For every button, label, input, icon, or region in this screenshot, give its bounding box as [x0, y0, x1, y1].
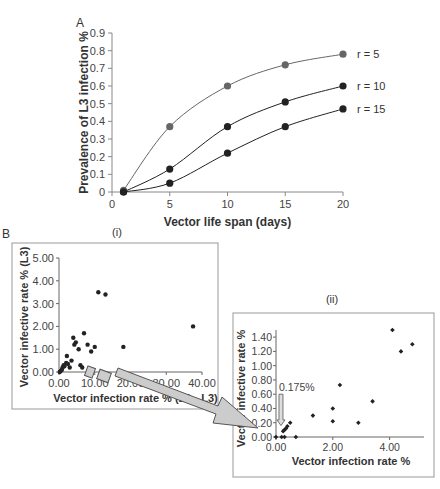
data-point — [82, 331, 86, 335]
data-point — [410, 342, 415, 347]
panel-label-a: A — [76, 16, 84, 30]
data-point — [339, 105, 346, 112]
y-tick-label: 0.80 — [252, 374, 273, 386]
data-point — [74, 340, 78, 344]
y-tick-label: 1.00 — [252, 360, 273, 372]
data-point — [89, 349, 93, 353]
data-point — [282, 123, 289, 130]
y-tick-label: 0.60 — [252, 388, 273, 400]
data-point — [339, 51, 346, 58]
data-point — [224, 150, 231, 157]
y-tick-label: 0.6 — [90, 80, 105, 92]
y-tick-label: 3.00 — [33, 298, 54, 310]
data-point — [282, 98, 289, 105]
data-point — [166, 165, 173, 172]
data-point — [69, 358, 73, 362]
y-tick-label: 1.20 — [252, 345, 273, 357]
data-point — [282, 61, 289, 68]
panel-label-b: B — [2, 227, 10, 241]
x-tick-label: 0.00 — [48, 377, 69, 389]
data-point — [121, 345, 125, 349]
data-point — [338, 383, 343, 388]
data-point — [331, 406, 336, 411]
series-label: r = 15 — [357, 103, 385, 115]
data-point — [166, 180, 173, 187]
x-tick-label: 0 — [109, 198, 115, 210]
data-point — [311, 413, 316, 418]
data-point — [120, 188, 127, 195]
y-tick-label: 5.00 — [33, 252, 54, 264]
y-tick-label: 0 — [99, 186, 105, 198]
data-point — [85, 342, 89, 346]
x-tick-label: 40.00 — [188, 377, 216, 389]
data-point — [65, 354, 69, 358]
data-point — [294, 435, 299, 440]
data-point — [399, 349, 404, 354]
threshold-annotation: 0.175% — [277, 381, 315, 425]
data-point — [166, 123, 173, 130]
y-tick-label: 1.40 — [252, 331, 273, 343]
data-point — [356, 420, 361, 425]
data-point — [191, 324, 195, 328]
panel-a: A 00.10.20.30.40.50.60.70.80.9 05101520 … — [76, 16, 385, 229]
x-tick-label: 15 — [279, 198, 291, 210]
y-tick-label: 0.9 — [90, 27, 105, 39]
data-point — [68, 365, 72, 369]
data-point — [274, 435, 279, 440]
y-axis-label: Prevalence of L3 infection % — [77, 31, 91, 194]
panel-b-i: B (i) 0.001.002.003.004.005.00 0.0010.00… — [2, 226, 218, 409]
y-tick-label: 0.4 — [90, 115, 105, 127]
data-point — [288, 420, 293, 425]
data-point — [103, 292, 107, 296]
panel-b-ii: (ii) 0.000.200.400.600.801.001.201.40 0.… — [233, 293, 434, 477]
x-tick-label: 4.00 — [379, 441, 400, 453]
x-tick-label: 20 — [337, 198, 349, 210]
y-tick-label: 0.2 — [90, 151, 105, 163]
data-point — [93, 345, 97, 349]
x-tick-label: 5 — [167, 198, 173, 210]
x-tick-label: 0.00 — [266, 441, 287, 453]
series-label: r = 10 — [357, 80, 385, 92]
data-point — [224, 123, 231, 130]
data-point — [224, 82, 231, 89]
x-tick-label: 10 — [221, 198, 233, 210]
y-tick-label: 4.00 — [33, 275, 54, 287]
y-tick-label: 0.40 — [252, 402, 273, 414]
y-tick-label: 0.3 — [90, 133, 105, 145]
y-tick-label: 0.7 — [90, 62, 105, 74]
data-point — [71, 336, 75, 340]
y-tick-label: 0.8 — [90, 45, 105, 57]
series-label: r = 5 — [357, 48, 379, 60]
figure: A 00.10.20.30.40.50.60.70.80.9 05101520 … — [0, 0, 440, 489]
y-tick-label: 1.00 — [33, 343, 54, 355]
series-line — [124, 54, 343, 190]
data-point — [331, 419, 336, 424]
data-point — [80, 365, 84, 369]
y-tick-label: 2.00 — [33, 320, 54, 332]
series-line — [124, 86, 343, 192]
x-axis-label: Vector life span (days) — [164, 215, 291, 229]
annotation-arrow — [277, 394, 285, 425]
data-point — [76, 347, 80, 351]
subpanel-label-ii: (ii) — [326, 293, 338, 305]
subpanel-label-i: (i) — [112, 226, 122, 238]
y-tick-label: 0.5 — [90, 98, 105, 110]
data-point — [370, 399, 375, 404]
y-tick-label: 0.1 — [90, 168, 105, 180]
data-point — [339, 82, 346, 89]
y-axis-label: Vector infective rate % — [235, 330, 247, 448]
annotation-label: 0.175% — [279, 381, 315, 393]
series-line — [124, 109, 343, 192]
data-point — [282, 435, 287, 440]
data-point — [390, 328, 395, 333]
y-axis-label: Vector infective rate % (L3) — [18, 246, 30, 387]
x-tick-label: 2.00 — [323, 441, 344, 453]
x-axis-label: Vector infection rate % — [292, 455, 411, 467]
data-point — [96, 290, 100, 294]
